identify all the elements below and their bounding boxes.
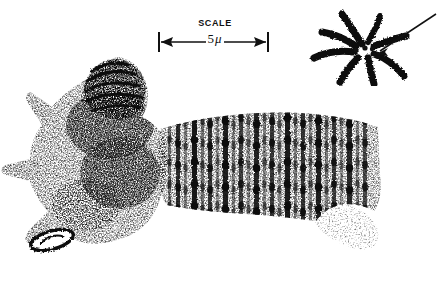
chromomere <box>262 114 267 122</box>
chromomere <box>222 161 230 169</box>
chromomere <box>262 180 267 188</box>
chromomere <box>362 117 368 125</box>
chromomere <box>253 208 261 216</box>
scale-bar: SCALE 5μ <box>155 18 275 58</box>
scale-bar-caption: SCALE <box>155 18 275 28</box>
chromomere <box>324 164 329 172</box>
chromomere <box>200 161 205 169</box>
chromomere <box>175 161 181 169</box>
chromomere <box>339 117 344 125</box>
chromomere <box>362 183 368 191</box>
chromomere <box>253 120 261 128</box>
chromomere <box>293 161 298 169</box>
chromomere <box>346 186 354 194</box>
chromomere <box>284 202 292 210</box>
chromomere <box>355 180 360 188</box>
chromomere <box>246 205 251 213</box>
chromomere <box>231 142 236 150</box>
chromomere <box>215 158 220 166</box>
inset-arm-6 <box>374 54 404 76</box>
chromomere <box>339 161 344 169</box>
chromomere <box>183 208 188 216</box>
chromomere <box>346 120 354 128</box>
chromomere <box>175 139 181 147</box>
chromomere <box>246 117 251 125</box>
chromomere <box>215 202 220 210</box>
chromomere <box>269 205 275 213</box>
chromomere <box>200 117 205 125</box>
chromomere <box>183 142 188 150</box>
chromomere <box>231 120 236 128</box>
chromomere <box>284 180 292 188</box>
chromomere <box>222 205 230 213</box>
chromomere <box>231 164 236 172</box>
chromomere <box>277 186 282 194</box>
chromomere <box>207 208 213 216</box>
chromomere <box>207 142 213 150</box>
inset-arm-5 <box>368 58 374 84</box>
chromomere <box>207 120 213 128</box>
chromomere <box>346 164 354 172</box>
inset-arm-4 <box>340 58 358 82</box>
chromomere <box>269 161 275 169</box>
chromomere <box>277 164 282 172</box>
chromomere <box>300 186 306 194</box>
chromomere <box>300 142 306 150</box>
chromomere <box>238 202 244 210</box>
chromomere <box>315 161 323 169</box>
chromomere <box>231 208 236 216</box>
chromomere <box>355 114 360 122</box>
chromomere <box>222 117 230 125</box>
chromomere <box>167 180 172 188</box>
chromomere <box>222 139 230 147</box>
chromomere <box>315 139 323 147</box>
chromomere <box>269 183 275 191</box>
chromomere <box>167 158 172 166</box>
chromomere <box>293 117 298 125</box>
chromomere <box>293 139 298 147</box>
chromomere <box>238 158 244 166</box>
chromomere <box>308 158 313 166</box>
chromomere <box>331 158 337 166</box>
chromomere <box>200 139 205 147</box>
chromomere <box>324 142 329 150</box>
chromomere <box>222 183 230 191</box>
chromomere <box>331 136 337 144</box>
chromomere <box>191 136 199 144</box>
chromomere <box>262 136 267 144</box>
chromomere <box>167 136 172 144</box>
chromomere <box>269 139 275 147</box>
chromomere <box>293 183 298 191</box>
chromomere <box>308 114 313 122</box>
inset-arm-3 <box>314 51 354 58</box>
chromomere <box>331 114 337 122</box>
inset-arm-8 <box>368 16 380 42</box>
chromomere <box>339 183 344 191</box>
chromomere <box>362 161 368 169</box>
chromomere <box>253 142 261 150</box>
chromomere <box>324 186 329 194</box>
chromomere <box>284 136 292 144</box>
specimen-illustration <box>0 55 442 283</box>
chromomere <box>167 202 172 210</box>
chromomere <box>183 120 188 128</box>
chromomere <box>339 139 344 147</box>
chromomere <box>262 158 267 166</box>
chromomere <box>183 186 188 194</box>
chromomere <box>324 120 329 128</box>
chromomere <box>362 139 368 147</box>
scale-bar-graphic <box>155 30 275 56</box>
chromomere <box>215 180 220 188</box>
chromomere <box>238 114 244 122</box>
chromomere <box>207 164 213 172</box>
chromomere <box>238 136 244 144</box>
chromomere <box>191 158 199 166</box>
chromomere <box>167 114 172 122</box>
chromomere <box>215 114 220 122</box>
chromomere <box>315 117 323 125</box>
chromomere <box>277 142 282 150</box>
chromomere <box>300 208 306 216</box>
chromomere <box>300 164 306 172</box>
chromomere <box>277 208 282 216</box>
chromomere <box>284 158 292 166</box>
